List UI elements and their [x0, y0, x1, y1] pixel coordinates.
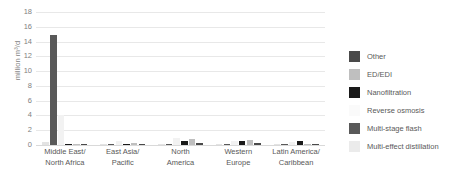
y-axis-tick-label: 12: [4, 52, 32, 60]
legend-swatch-icon: [349, 123, 360, 134]
bar: [196, 143, 203, 145]
bar: [189, 139, 196, 145]
bar: [42, 142, 49, 145]
legend-item[interactable]: Other: [349, 47, 453, 65]
bar: [73, 144, 80, 145]
bar-group: [36, 12, 94, 145]
bar-group: [94, 12, 152, 145]
legend-item[interactable]: Nanofiltration: [349, 83, 453, 101]
plot-area: [36, 12, 325, 145]
bar: [304, 144, 311, 145]
bar: [181, 141, 188, 145]
bar: [274, 144, 281, 145]
bar: [139, 144, 146, 145]
legend-item[interactable]: Multi-effect distillation: [349, 137, 453, 155]
legend-swatch-icon: [349, 69, 360, 80]
bar: [224, 144, 231, 145]
bar: [239, 141, 246, 145]
bar-group: [152, 12, 210, 145]
y-axis-tick-label: 14: [4, 38, 32, 46]
legend-label: Reverse osmosis: [367, 106, 425, 115]
bar: [108, 144, 115, 145]
bar: [281, 144, 288, 145]
x-axis-category-label: East Asia/Pacific: [94, 147, 152, 168]
legend-item[interactable]: ED/EDI: [349, 65, 453, 83]
x-axis-category-label: NorthAmerica: [152, 147, 210, 168]
x-axis-category-label: Middle East/North Africa: [36, 147, 94, 168]
legend-label: Multi-effect distillation: [367, 142, 439, 151]
legend-item[interactable]: Reverse osmosis: [349, 101, 453, 119]
bar: [81, 144, 88, 145]
bar: [100, 144, 107, 145]
bar: [254, 143, 261, 145]
legend-label: Other: [367, 52, 386, 61]
legend-swatch-icon: [349, 105, 360, 116]
chart-legend: OtherED/EDINanofiltrationReverse osmosis…: [349, 47, 453, 155]
y-axis-tick-label: 4: [4, 111, 32, 119]
legend-label: ED/EDI: [367, 70, 392, 79]
x-axis-category-label: WesternEurope: [209, 147, 267, 168]
legend-swatch-icon: [349, 141, 360, 152]
legend-label: Nanofiltration: [367, 88, 411, 97]
y-axis-tick-labels: 181614121086420: [0, 12, 32, 145]
y-axis-tick-label: 10: [4, 67, 32, 75]
bar: [231, 141, 238, 145]
bar: [312, 144, 319, 145]
y-axis-tick-label: 6: [4, 97, 32, 105]
bar: [131, 143, 138, 145]
bar: [166, 144, 173, 145]
bar: [173, 138, 180, 145]
y-axis-tick-label: 18: [4, 8, 32, 16]
legend-item[interactable]: Multi-stage flash: [349, 119, 453, 137]
bar-groups: [36, 12, 325, 145]
y-axis-tick-label: 8: [4, 82, 32, 90]
x-axis-category-label: Latin America/Caribbean: [267, 147, 325, 168]
bar: [247, 140, 254, 145]
bar: [65, 144, 72, 145]
legend-label: Multi-stage flash: [367, 124, 422, 133]
bar-group: [267, 12, 325, 145]
bar: [297, 141, 304, 145]
legend-swatch-icon: [349, 87, 360, 98]
y-axis-tick-label: 2: [4, 126, 32, 134]
legend-swatch-icon: [349, 51, 360, 62]
bar: [58, 115, 65, 145]
bar: [216, 144, 223, 145]
bar: [116, 141, 123, 145]
desalination-capacity-bar-chart: million m³/d 181614121086420 Middle East…: [0, 0, 453, 185]
x-axis-category-labels: Middle East/North AfricaEast Asia/Pacifi…: [36, 147, 325, 168]
y-axis-tick-label: 16: [4, 23, 32, 31]
bar-group: [209, 12, 267, 145]
y-axis-tick-label: 0: [4, 141, 32, 149]
bar: [123, 144, 130, 145]
bar: [289, 142, 296, 145]
gridline: [36, 145, 325, 146]
bar: [158, 144, 165, 145]
bar: [50, 35, 57, 145]
